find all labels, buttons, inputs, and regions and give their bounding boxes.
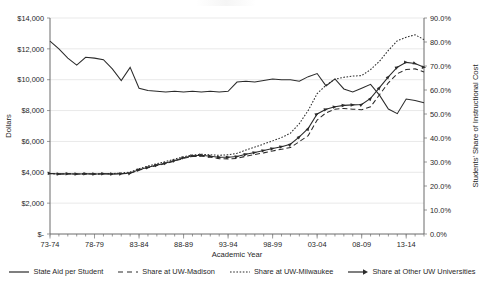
y-axis-title: Dollars [4, 114, 13, 138]
x-axis-tick-label: 88-89 [174, 240, 193, 249]
x-axis-tick-label: 83-84 [130, 240, 149, 249]
series-uw-milwaukee [50, 35, 424, 174]
legend-label-uw-madison: Share at UW-Madison [142, 267, 215, 276]
y2-axis-tick-label: 10.0% [430, 206, 451, 215]
y2-axis-tick-label: 40.0% [430, 134, 451, 143]
y2-axis-tick-label: 60.0% [430, 86, 451, 95]
y-axis-tick-label: $6,000 [21, 137, 44, 146]
y-axis-tick-label: $- [37, 230, 44, 239]
legend-label-other-uw: Share at Other UW Universities [372, 267, 475, 276]
line-solid-icon [8, 268, 30, 276]
x-axis-tick-label: 08-09 [352, 240, 371, 249]
y2-axis-tick-label: 30.0% [430, 158, 451, 167]
y2-axis-tick-label: 90.0% [430, 14, 451, 23]
y2-axis-tick-label: 70.0% [430, 62, 451, 71]
line-dashed-icon [117, 268, 139, 276]
x-axis-title: Academic Year [212, 250, 263, 259]
legend-item-state-aid[interactable]: State Aid per Student [8, 267, 103, 276]
y2-axis-tick-label: 20.0% [430, 182, 451, 191]
y2-axis-tick-label: 50.0% [430, 110, 451, 119]
line-arrow-markers-icon [347, 268, 369, 276]
series-marker-other-uw [314, 111, 319, 116]
x-axis-tick-label: 98-99 [263, 240, 282, 249]
legend-label-uw-milwaukee: Share at UW-Milwaukee [254, 267, 334, 276]
series-marker-other-uw [412, 61, 417, 66]
y2-axis-title: Students' Share of Instructional Cost [471, 64, 480, 188]
chart-container: $-$2,000$4,000$6,000$8,000$10,000$12,000… [0, 0, 484, 281]
y-axis-tick-label: $12,000 [17, 45, 44, 54]
x-axis-tick-label: 13-14 [397, 240, 416, 249]
series-uw-madison [50, 69, 424, 174]
legend-item-uw-milwaukee[interactable]: Share at UW-Milwaukee [229, 267, 334, 276]
legend-item-other-uw[interactable]: Share at Other UW Universities [347, 267, 475, 276]
x-axis-tick-label: 78-79 [85, 240, 104, 249]
series-marker-other-uw [342, 104, 347, 108]
line-dotted-icon [229, 268, 251, 276]
series-marker-other-uw [350, 103, 355, 107]
y2-axis-tick-label: 80.0% [430, 38, 451, 47]
x-axis-tick-label: 93-94 [219, 240, 238, 249]
y-axis-tick-label: $4,000 [21, 168, 44, 177]
y-axis-tick-label: $8,000 [21, 106, 44, 115]
x-axis-tick-label: 03-04 [308, 240, 327, 249]
series-state-aid [50, 41, 424, 114]
x-axis-tick-label: 73-74 [41, 240, 60, 249]
legend-item-uw-madison[interactable]: Share at UW-Madison [117, 267, 215, 276]
chart-plot-area: $-$2,000$4,000$6,000$8,000$10,000$12,000… [0, 0, 484, 281]
y-axis-tick-label: $14,000 [17, 14, 44, 23]
series-marker-other-uw [190, 154, 195, 158]
legend-label-state-aid: State Aid per Student [33, 267, 103, 276]
y2-axis-tick-label: 0.0% [430, 230, 447, 239]
chart-legend: State Aid per Student Share at UW-Madiso… [0, 262, 484, 281]
y-axis-tick-label: $2,000 [21, 199, 44, 208]
y-axis-tick-label: $10,000 [17, 75, 44, 84]
